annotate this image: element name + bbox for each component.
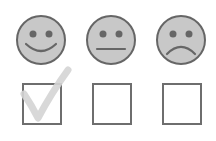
sad-checkbox[interactable] [162, 83, 202, 125]
neutral-checkbox[interactable] [92, 83, 132, 125]
sad-face-icon [155, 14, 207, 66]
neutral-face-icon [85, 14, 137, 66]
happy-checkbox[interactable] [22, 83, 62, 125]
happy-face-icon [15, 14, 67, 66]
